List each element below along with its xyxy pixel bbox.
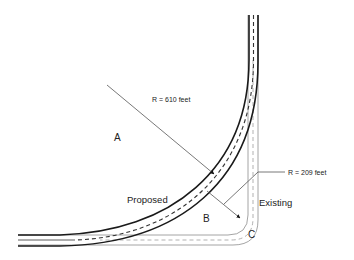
radius-209-arrow [207,191,240,218]
zone-b-label: B [203,213,210,224]
proposed-road-centerline [75,15,254,240]
proposed-label: Proposed [127,194,168,205]
proposed-road-outer-edge [18,15,258,246]
radius-610-label: R = 610 feet [152,96,190,103]
existing-road-outer-edge [18,15,258,245]
existing-road [18,15,258,245]
radius-209-label: R = 209 feet [288,169,326,176]
zone-c-label: C [248,229,255,240]
proposed-road [18,15,258,246]
zone-a-label: A [114,132,121,143]
existing-road-centerline [100,60,253,240]
road-curve-diagram: R = 610 feet R = 209 feet A B C Proposed… [0,0,354,260]
existing-label: Existing [259,197,292,208]
